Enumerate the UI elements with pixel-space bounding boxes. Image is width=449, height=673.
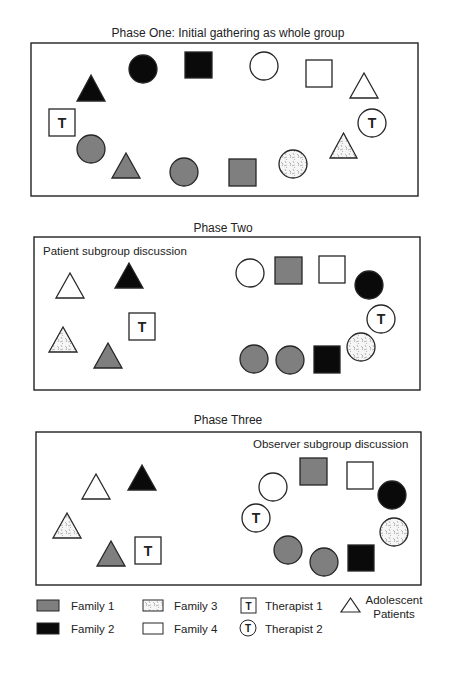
family1-parent-square-icon [300,458,327,485]
legend-label: Patients [373,608,415,620]
family1-patient-triangle-icon [112,153,140,178]
member-shapes: TT [49,256,395,374]
therapist-label: T [252,510,261,526]
member-shapes: TT [49,52,386,186]
family1-swatch-icon [37,600,59,611]
phase-panel-1: Phase One: Initial gathering as whole gr… [31,26,418,196]
family4-parent-circle-icon [250,52,278,80]
therapist-2-circle-icon: T [358,109,386,137]
family4-parent-circle-icon [259,473,287,501]
family4-parent-circle-icon [236,259,264,287]
group-phases-diagram: Phase One: Initial gathering as whole gr… [0,0,449,673]
therapist-label: T [58,115,67,131]
legend: Family 1Family 2Family 3Family 4TTherapi… [37,594,423,636]
family1-parent-circle-icon [276,346,304,374]
therapist-1-square-icon: T [129,313,155,340]
family4-parent-square-icon [347,462,373,489]
legend-item-family4: Family 4 [143,623,218,635]
family2-patient-triangle-icon [128,465,156,490]
therapist-label: T [138,319,147,335]
phases-layer: Phase One: Initial gathering as whole gr… [31,26,421,585]
family3-parent-circle-icon [279,150,307,178]
family3-patient-triangle-icon [330,133,357,158]
phase-panel-3: Phase ThreeObserver subgroup discussionT… [36,413,421,585]
legend-item-family2: Family 2 [37,623,114,635]
legend-item-family3: Family 3 [143,600,217,612]
therapist-label: T [377,311,386,327]
phase-title: Phase One: Initial gathering as whole gr… [112,26,345,40]
therapist-1-square-icon: T [49,109,75,136]
member-shapes: TT [53,458,408,576]
legend-label: Therapist 1 [265,600,323,612]
family2-patient-triangle-icon [115,263,143,288]
phase-title: Phase Two [193,221,252,235]
therapist-2-circle-icon: T [240,620,256,636]
family1-parent-circle-icon [240,345,268,373]
subgroup-label: Patient subgroup discussion [43,245,187,257]
family2-parent-square-icon [185,52,212,78]
family3-parent-circle-icon [347,333,375,361]
therapist-label: T [144,543,153,559]
phase-title: Phase Three [194,413,263,427]
legend-label: Family 1 [71,600,114,612]
legend-label: Therapist 2 [265,623,323,635]
family3-patient-triangle-icon [53,513,81,538]
family1-parent-circle-icon [274,536,302,564]
family1-patient-triangle-icon [97,541,125,566]
subgroup-label: Observer subgroup discussion [253,438,408,450]
family4-parent-square-icon [306,60,332,87]
legend-item-therapist1: TTherapist 1 [241,598,323,613]
legend-label: Family 2 [71,623,114,635]
patient-triangle-icon [341,598,360,612]
family4-patient-triangle-icon [350,73,378,98]
legend-label: Family 4 [174,623,218,635]
family2-parent-square-icon [348,545,374,571]
diagram-canvas: Phase One: Initial gathering as whole gr… [0,0,449,673]
legend-label: Family 3 [174,600,217,612]
family1-parent-square-icon [275,257,302,284]
family2-parent-square-icon [314,346,340,373]
legend-item-family1: Family 1 [37,600,114,612]
family1-parent-square-icon [229,159,256,186]
therapist-label: T [368,115,377,131]
family2-swatch-icon [37,623,59,634]
therapist-symbol: T [245,623,251,634]
family2-patient-triangle-icon [77,75,105,101]
family2-parent-circle-icon [129,55,157,83]
therapist-2-circle-icon: T [367,305,395,333]
family2-parent-circle-icon [378,481,406,509]
family3-patient-triangle-icon [49,327,77,352]
phase-frame [34,237,420,390]
family4-swatch-icon [143,623,163,634]
family3-parent-circle-icon [380,518,408,546]
family1-parent-circle-icon [170,158,198,186]
family1-parent-circle-icon [310,548,338,576]
therapist-symbol: T [245,601,251,612]
family4-patient-triangle-icon [82,474,110,499]
legend-label: Adolescent [366,594,424,606]
family2-parent-circle-icon [355,271,383,299]
family4-parent-square-icon [319,256,345,283]
legend-item-therapist2: TTherapist 2 [240,620,323,636]
therapist-1-square-icon: T [241,598,256,613]
therapist-1-square-icon: T [135,537,161,564]
phase-panel-2: Phase TwoPatient subgroup discussionTT [34,221,420,390]
legend-item-patients: AdolescentPatients [341,594,423,620]
therapist-2-circle-icon: T [242,504,270,532]
family1-patient-triangle-icon [94,343,122,368]
family4-patient-triangle-icon [56,273,84,298]
family1-parent-circle-icon [77,135,105,163]
family3-swatch-icon [143,600,163,611]
